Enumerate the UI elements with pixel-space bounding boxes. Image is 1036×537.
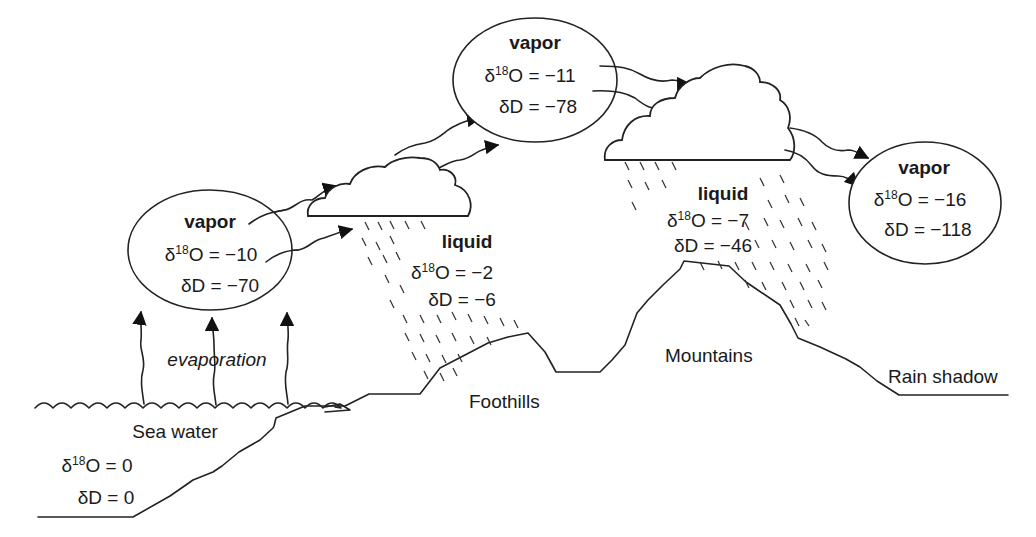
vapor-1-title: vapor <box>184 212 236 231</box>
vapor-3-dd: δD = −118 <box>884 220 971 239</box>
liquid-2-dd: δD = −46 <box>674 236 752 255</box>
sea-water-dd: δD = 0 <box>78 488 135 507</box>
foothills-label: Foothills <box>469 392 540 411</box>
vapor-3-d18o: δ18O = −16 <box>874 189 967 209</box>
liquid-1-d18o: δ18O = −2 <box>411 262 493 282</box>
sea-water-d18o: δ18O = 0 <box>62 455 133 475</box>
vapor-3-title: vapor <box>898 158 950 177</box>
rain-shadow-label: Rain shadow <box>888 367 998 386</box>
vapor-2-dd: δD = −78 <box>499 97 577 116</box>
evaporation-label: evaporation <box>167 350 266 369</box>
vapor-2-title: vapor <box>509 33 561 52</box>
mountains-label: Mountains <box>665 346 753 365</box>
liquid-2-d18o: δ18O = −7 <box>667 210 749 230</box>
vapor-1-dd: δD = −70 <box>181 276 259 295</box>
liquid-1-dd: δD = −6 <box>428 290 496 309</box>
vapor-1-d18o: δ18O = −10 <box>165 244 258 264</box>
sea-water-title: Sea water <box>132 422 218 441</box>
vapor-2-d18o: δ18O = −11 <box>484 65 575 85</box>
liquid-1-title: liquid <box>442 232 493 251</box>
cloud-2 <box>605 65 795 161</box>
liquid-2-title: liquid <box>698 184 749 203</box>
